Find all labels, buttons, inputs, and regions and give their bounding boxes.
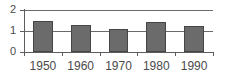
x-tick-mark	[24, 52, 25, 56]
bar-chart: 2 1 0 19501960197019801990	[0, 0, 230, 81]
x-tick-label: 1960	[62, 59, 100, 73]
axis-baseline-value-0	[24, 52, 213, 53]
x-tick-mark	[213, 52, 214, 56]
y-tick-label-2: 2	[2, 4, 16, 15]
x-tick-label: 1990	[175, 59, 213, 73]
bar	[146, 22, 166, 52]
bar	[33, 21, 53, 52]
x-tick-mark	[100, 52, 101, 56]
x-tick-mark	[62, 52, 63, 56]
x-tick-mark	[137, 52, 138, 56]
x-tick-mark	[175, 52, 176, 56]
x-tick-label: 1950	[24, 59, 62, 73]
x-tick-label: 1970	[100, 59, 138, 73]
bar	[109, 29, 129, 52]
y-tick-label-0: 0	[2, 46, 16, 57]
bars-layer	[24, 10, 213, 52]
bar	[184, 26, 204, 52]
y-tick-label-1: 1	[2, 25, 16, 36]
x-tick-label: 1980	[137, 59, 175, 73]
bar	[71, 25, 91, 52]
